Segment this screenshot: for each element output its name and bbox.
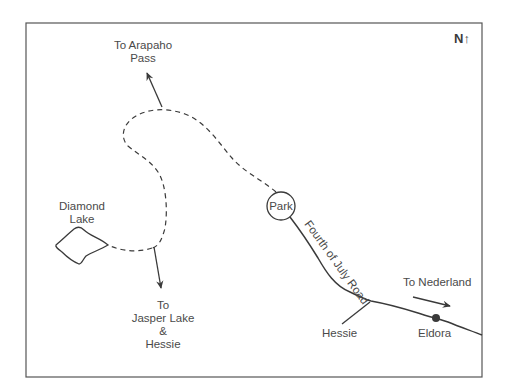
- label-arapaho-line2: Pass: [130, 52, 156, 64]
- label-eldora: Eldora: [418, 327, 452, 339]
- label-hessie: Hessie: [322, 327, 357, 339]
- arrow-to-nederland: [413, 297, 450, 306]
- label-jasper-line2: Jasper Lake: [132, 312, 195, 324]
- diamond-lake-shape: [56, 227, 108, 264]
- label-jasper-line4: Hessie: [145, 338, 180, 350]
- arrow-to-arapaho-pass: [147, 73, 162, 107]
- label-jasper-line1: To: [157, 299, 169, 311]
- trail-map: N↑ To Arapaho Pass Diamond Lake To Jaspe…: [0, 0, 505, 386]
- label-diamond-line2: Lake: [70, 213, 95, 225]
- eldora-dot: [432, 314, 440, 322]
- label-jasper-line3: &: [159, 325, 167, 337]
- label-diamond-line1: Diamond: [59, 200, 105, 212]
- north-indicator: N↑: [454, 31, 470, 46]
- hessie-spur: [342, 302, 370, 324]
- label-park: Park: [269, 200, 293, 212]
- arrow-to-jasper-lake: [154, 247, 161, 288]
- label-arapaho-line1: To Arapaho: [114, 39, 172, 51]
- trail-dashed: [123, 110, 276, 248]
- trail-to-diamond-lake: [110, 246, 152, 251]
- label-fourth-of-july-road: Fourth of July Road: [302, 218, 371, 306]
- label-to-nederland: To Nederland: [403, 276, 471, 288]
